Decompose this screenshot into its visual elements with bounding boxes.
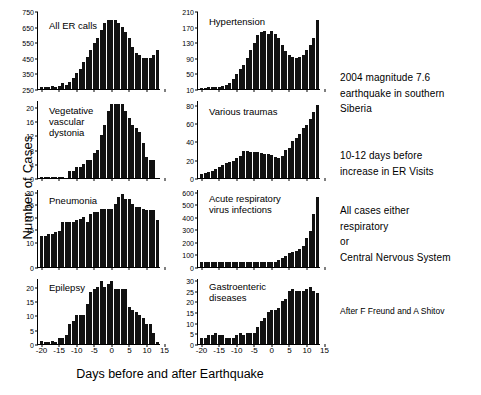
bar [65,85,68,89]
y-tick-mark [35,301,38,302]
bar [298,57,301,89]
bar [44,342,47,344]
bar [107,20,110,89]
y-tick-label: 130 [160,40,198,47]
bar [225,262,228,267]
x-tick-mark [59,267,60,270]
bar [72,78,75,89]
y-tick-mark [35,122,38,123]
bar [302,246,305,267]
bar [100,281,103,344]
bar [225,338,228,344]
bar [277,158,280,178]
x-tick-mark [146,89,147,92]
y-tick-label: 300 [160,227,198,234]
bar [152,160,155,178]
bar [246,58,249,89]
y-tick-mark [35,268,38,269]
bar [242,262,245,267]
y-tick-mark [35,287,38,288]
y-tick-mark [195,205,198,206]
bar [135,53,138,89]
bar [145,157,148,178]
y-tick-mark [195,242,198,243]
bar [110,104,113,178]
bar [142,318,145,344]
y-tick-label: 20 [0,105,38,112]
bar [207,262,210,267]
bar [207,87,210,89]
bar [253,333,256,344]
y-tick-mark [35,43,38,44]
bar [312,291,315,344]
y-tick-label: 400 [160,214,198,221]
bar [72,321,75,344]
bar [253,152,256,178]
bar [218,167,221,178]
bar [121,104,124,178]
bar [93,212,96,267]
bar [93,153,96,178]
y-tick-mark [195,105,198,106]
bar [47,234,50,267]
bar [131,204,134,267]
chart-panel: 0100200300400500600Acute respiratory vir… [197,190,320,268]
y-tick-mark [195,192,198,193]
bar [54,342,57,344]
y-tick-mark [35,205,38,206]
bar [232,161,235,178]
y-tick-label: 5 [160,331,198,338]
x-tick-mark [306,178,307,181]
bar [82,62,85,89]
bar [288,148,291,178]
bar [65,335,68,344]
bar [82,217,85,267]
y-tick-label: 10 [160,87,198,94]
bar [298,291,301,344]
bar [128,307,131,344]
bar [221,262,224,267]
x-tick-mark [129,89,130,92]
y-tick-label: 40 [160,139,198,146]
panel-title: Pneumonia [49,195,97,206]
y-tick-label: 30 [160,278,198,285]
bar [239,156,242,178]
y-tick-label: 20 [0,284,38,291]
bar [135,312,138,344]
bar [40,236,43,267]
bar [298,249,301,267]
note-earthquake: 2004 magnitude 7.6 earthquake in souther… [340,70,445,117]
bar [260,32,263,89]
x-tick-mark [129,267,130,270]
bar [117,289,120,344]
bar [65,222,68,267]
bar [128,38,131,89]
y-tick-mark [195,281,198,282]
y-tick-mark [195,12,198,13]
bar [124,199,127,267]
x-tick-label: -15 [53,347,65,355]
bar [135,207,138,267]
bar [211,171,214,178]
bar [103,287,106,344]
bar [291,289,294,344]
y-tick-label: 0 [0,265,38,272]
bar [149,160,152,178]
bar [114,289,117,344]
bar [44,177,47,178]
x-tick-mark [94,178,95,181]
x-tick-label: 15 [320,347,329,355]
bar [82,315,85,344]
bar [281,156,284,178]
bar [309,231,312,267]
bar [256,262,259,267]
bar [156,50,159,89]
bar [260,153,263,178]
y-tick-label: 0 [160,265,198,272]
bar [114,20,117,89]
bar [117,23,120,89]
bar [121,194,124,267]
bar [288,55,291,89]
x-tick-mark [254,267,255,270]
bar [239,262,242,267]
